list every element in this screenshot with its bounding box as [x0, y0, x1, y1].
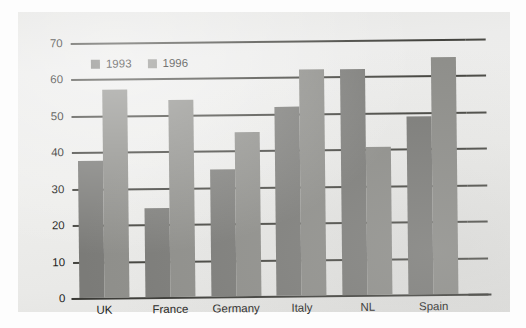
y-axis-label-70: 70 — [35, 37, 63, 49]
bar-germany-1993 — [210, 169, 236, 297]
x-axis-label-nl: NL — [360, 301, 375, 313]
y-axis-label-10: 10 — [37, 256, 65, 268]
y-axis-label-40: 40 — [36, 146, 64, 158]
y-axis-label-20: 20 — [37, 219, 65, 231]
y-tick-20 — [468, 221, 488, 223]
x-axis-label-uk: UK — [96, 304, 112, 316]
bar-uk-1993 — [78, 161, 104, 298]
legend-item-1996: 1996 — [147, 57, 188, 69]
y-axis: 010203040506070 — [16, 9, 508, 14]
bar-italy-1996 — [299, 69, 326, 295]
y-axis-label-30: 30 — [36, 183, 64, 195]
bar-nl-1996 — [366, 147, 393, 295]
y-axis-label-50: 50 — [35, 110, 63, 122]
chart-legend: 19931996 — [91, 57, 188, 70]
y-tick-50 — [466, 111, 486, 113]
legend-label-1996: 1996 — [162, 57, 188, 69]
y-tick-30 — [467, 184, 487, 186]
x-axis-label-spain: Spain — [419, 300, 449, 312]
bar-spain-1993 — [407, 116, 434, 295]
bar-series-group — [16, 9, 508, 14]
gridline-60 — [71, 75, 466, 81]
legend-label-1993: 1993 — [106, 57, 132, 69]
x-axis-label-france: France — [152, 303, 188, 315]
y-axis-label-0: 0 — [37, 292, 65, 304]
gridline-70 — [71, 39, 466, 45]
bar-spain-1996 — [431, 57, 459, 294]
y-axis-label-60: 60 — [35, 74, 63, 86]
x-axis-label-italy: Italy — [291, 301, 312, 313]
x-axis-label-germany: Germany — [212, 302, 259, 315]
bar-france-1996 — [168, 100, 195, 297]
legend-item-1993: 1993 — [91, 57, 132, 69]
bar-italy-1993 — [275, 106, 302, 296]
bar-nl-1993 — [340, 69, 367, 295]
plot-area: 010203040506070 UKFranceGermanyItalyNLSp… — [16, 9, 511, 314]
x-axis: UKFranceGermanyItalyNLSpain — [16, 9, 508, 14]
legend-swatch-1996 — [147, 59, 156, 68]
bar-france-1993 — [144, 208, 170, 298]
grid-lines — [16, 9, 508, 14]
legend-swatch-1993 — [91, 59, 100, 68]
bar-germany-1996 — [234, 132, 261, 296]
y-tick-60 — [466, 75, 486, 77]
y-axis-tick-marks — [16, 9, 508, 14]
y-tick-10 — [468, 257, 488, 259]
y-tick-70 — [466, 39, 486, 41]
scanned-paper-panel: 010203040506070 UKFranceGermanyItalyNLSp… — [18, 12, 510, 312]
bar-uk-1996 — [102, 90, 129, 298]
y-tick-40 — [467, 148, 487, 150]
chart-screenshot: 010203040506070 UKFranceGermanyItalyNLSp… — [0, 0, 526, 328]
